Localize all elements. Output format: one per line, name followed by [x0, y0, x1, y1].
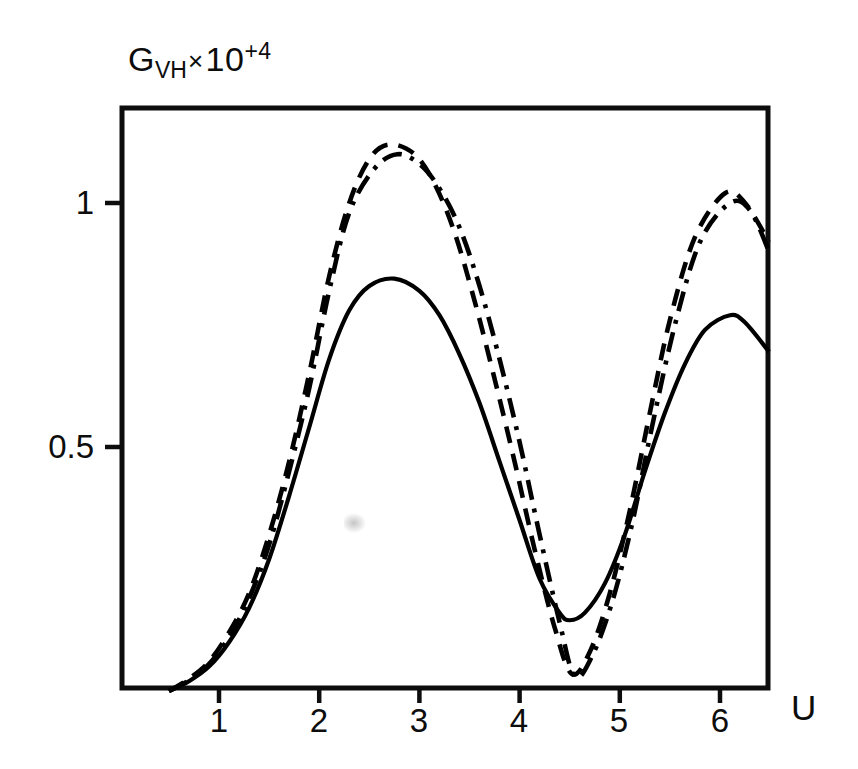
tick-marks: [105, 203, 720, 703]
data-curves: [169, 144, 769, 691]
plot-area: [0, 0, 858, 769]
figure-chart: GVH×10+4 U 1 0.5 1 2 3 4 5 6: [0, 0, 858, 769]
solid-curve: [169, 279, 769, 691]
dashed-curve: [169, 144, 769, 691]
dash-dot-curve: [169, 154, 769, 691]
